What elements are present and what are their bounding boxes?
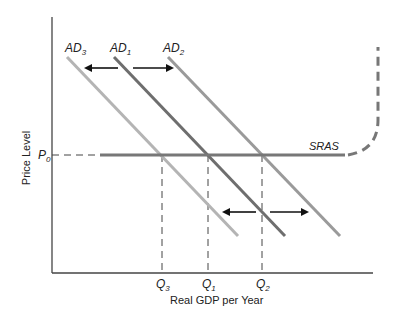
ad3-curve — [67, 57, 238, 236]
y-axis-title: Price Level — [20, 131, 32, 185]
ad1-curve — [114, 57, 285, 236]
q2-label: Q2 — [256, 277, 270, 293]
x-axis-title: Real GDP per Year — [170, 294, 264, 306]
sras-label: SRAS — [309, 140, 340, 152]
ad1-label: AD1 — [109, 41, 131, 57]
q3-label: Q3 — [156, 277, 170, 293]
ad2-label: AD2 — [162, 41, 185, 57]
ad3-label: AD3 — [64, 41, 87, 57]
q1-label: Q1 — [202, 277, 216, 293]
ad-sras-diagram: AD3 AD1 AD2 SRAS P0 Q3 Q1 Q2 Real GDP pe… — [0, 0, 398, 315]
p0-label: P0 — [38, 148, 51, 164]
sras-dashed-extension — [348, 47, 378, 155]
